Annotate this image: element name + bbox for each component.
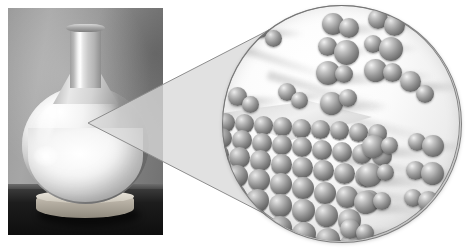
atom	[335, 65, 353, 83]
molecule-6	[316, 61, 353, 89]
atom	[384, 15, 405, 36]
lattice-atom	[222, 225, 242, 241]
atom	[265, 30, 282, 47]
molecule-17	[404, 189, 439, 212]
atom	[416, 85, 434, 103]
molecule-14	[358, 163, 394, 188]
flask-neck-lip	[66, 24, 105, 32]
molecule-1	[252, 21, 282, 47]
atom	[421, 162, 444, 185]
molecule-10	[320, 89, 357, 115]
flask-photograph: Photograph of a round-bottomed glass fla…	[8, 8, 163, 235]
molecule-18	[340, 219, 374, 241]
atom	[379, 37, 403, 61]
molecule-16	[354, 191, 391, 215]
molecule-15	[406, 161, 444, 185]
atom	[418, 191, 439, 212]
molecule-9	[278, 83, 308, 110]
molecule-7	[364, 59, 402, 86]
molecule-2	[322, 13, 359, 40]
lattice-atom	[242, 232, 267, 241]
atom	[291, 92, 308, 109]
atom	[356, 224, 374, 241]
molecule-3	[368, 9, 405, 36]
molecular-scale-figure: Photograph of a round-bottomed glass fla…	[0, 0, 473, 250]
molecule-5	[364, 35, 403, 61]
atom	[242, 96, 259, 113]
molecular-view: Magnified molecular-scale view showing a…	[222, 5, 460, 241]
atom	[381, 137, 398, 154]
flask-neck	[70, 26, 101, 88]
atom	[422, 135, 444, 157]
atom	[377, 164, 394, 181]
lattice-row	[222, 218, 342, 241]
molecule-12	[362, 135, 398, 160]
magnifier-alt-text: Magnified molecular-scale view showing a…	[222, 5, 223, 6]
molecule-8	[228, 87, 259, 115]
molecule-11	[400, 71, 434, 106]
molecule-13	[408, 133, 444, 157]
atom	[373, 192, 391, 210]
atom	[339, 89, 357, 107]
lattice-atom	[267, 238, 292, 241]
atom	[339, 18, 359, 38]
